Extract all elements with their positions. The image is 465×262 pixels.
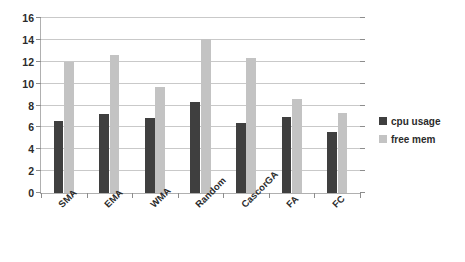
bar-free-mem-ema: [110, 55, 120, 193]
y-axis-tick-label: 10: [22, 78, 34, 90]
x-axis-tick-mark: [223, 193, 224, 198]
right-axis-tick-mark: [360, 39, 365, 40]
right-axis-tick-mark: [360, 105, 365, 106]
bar-free-mem-fc: [338, 113, 348, 193]
x-axis-tick-mark: [314, 193, 315, 198]
bar-cpu-usage-wma: [145, 118, 155, 193]
bar-cpu-usage-cascorga: [236, 123, 246, 193]
right-axis-tick-mark: [360, 170, 365, 171]
bar-free-mem-random: [201, 39, 211, 193]
legend-label: cpu usage: [391, 116, 440, 127]
bar-free-mem-sma: [64, 62, 74, 193]
right-axis-tick-mark: [360, 83, 365, 84]
y-axis-tick-mark: [36, 170, 41, 171]
plot-area: 0246810121416 SMAEMAWMARandomCascorGAFAF…: [40, 18, 360, 194]
x-axis-tick-mark: [178, 193, 179, 198]
x-axis-label-fc: FC: [330, 193, 347, 210]
y-axis-tick-mark: [36, 105, 41, 106]
legend-swatch-icon: [379, 135, 387, 143]
y-axis-tick-label: 14: [22, 34, 34, 46]
right-axis-tick-mark: [360, 126, 365, 127]
bar-cpu-usage-fa: [282, 117, 292, 193]
right-axis-tick-mark: [360, 61, 365, 62]
bar-cpu-usage-ema: [99, 114, 109, 193]
x-axis-tick-mark: [132, 193, 133, 198]
legend-item-free-mem[interactable]: free mem: [379, 130, 463, 148]
x-axis-label-fa: FA: [284, 193, 301, 210]
bar-cpu-usage-random: [190, 102, 200, 193]
y-axis-tick-mark: [36, 83, 41, 84]
y-axis-tick-label: 2: [28, 165, 34, 177]
legend-swatch-icon: [379, 117, 387, 125]
y-axis-tick-mark: [36, 61, 41, 62]
right-axis-tick-mark: [360, 148, 365, 149]
bar-chart: 0246810121416 SMAEMAWMARandomCascorGAFAF…: [0, 0, 465, 262]
x-axis-tick-mark: [269, 193, 270, 198]
y-axis-tick-label: 0: [28, 187, 34, 199]
y-axis-tick-label: 6: [28, 121, 34, 133]
x-axis-tick-mark: [41, 193, 42, 198]
right-axis-tick-mark: [360, 17, 365, 18]
x-axis-tick-mark: [360, 193, 361, 198]
x-axis-tick-mark: [87, 193, 88, 198]
y-axis-tick-mark: [36, 17, 41, 18]
y-axis-tick-label: 4: [28, 143, 34, 155]
bar-free-mem-cascorga: [246, 58, 256, 193]
gridline: [41, 17, 360, 18]
legend: cpu usagefree mem: [379, 112, 463, 148]
legend-label: free mem: [391, 134, 435, 145]
y-axis-tick-mark: [36, 148, 41, 149]
legend-item-cpu-usage[interactable]: cpu usage: [379, 112, 463, 130]
y-axis-tick-label: 12: [22, 56, 34, 68]
bar-free-mem-wma: [155, 87, 165, 193]
bar-cpu-usage-sma: [54, 121, 64, 193]
y-axis-tick-mark: [36, 126, 41, 127]
y-axis-tick-label: 16: [22, 12, 34, 24]
bar-free-mem-fa: [292, 99, 302, 193]
bar-cpu-usage-fc: [327, 132, 337, 193]
y-axis-tick-label: 8: [28, 100, 34, 112]
y-axis-tick-mark: [36, 39, 41, 40]
